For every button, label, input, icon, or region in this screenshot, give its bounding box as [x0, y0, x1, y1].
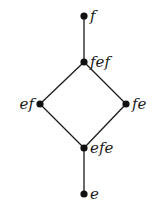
node-dot: [80, 144, 87, 151]
node-label: ef: [20, 95, 37, 113]
node-dot: [80, 190, 87, 197]
node-label: f: [89, 7, 98, 25]
node-label: efe: [90, 139, 113, 157]
node-dot: [122, 100, 129, 107]
nodes: ffefeffeefee: [20, 7, 147, 203]
edges: [40, 16, 126, 194]
node-dot: [80, 58, 87, 65]
node-dot: [36, 100, 43, 107]
node-label: fef: [89, 53, 112, 71]
hasse-diagram: ffefeffeefee: [0, 0, 162, 206]
node-ef: ef: [20, 95, 44, 113]
node-label: e: [90, 185, 99, 203]
node-f: f: [80, 7, 98, 25]
edge-ef-efe: [40, 104, 84, 148]
node-dot: [80, 12, 87, 19]
node-fef: fef: [80, 53, 112, 71]
node-efe: efe: [80, 139, 113, 157]
node-e: e: [80, 185, 99, 203]
node-fe: fe: [122, 95, 146, 113]
node-label: fe: [131, 95, 147, 113]
edge-fef-ef: [40, 62, 84, 104]
